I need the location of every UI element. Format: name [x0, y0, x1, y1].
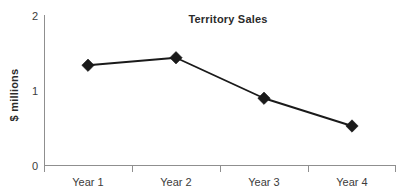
chart-container: Territory Sales $ millions 2 1 0 Year 1 … [0, 0, 410, 194]
y-axis-title: $ millions [8, 69, 20, 122]
x-category-label-year-4: Year 4 [336, 176, 367, 188]
x-category-label-year-3: Year 3 [248, 176, 279, 188]
y-tick-label-1: 1 [32, 85, 38, 97]
x-category-label-year-1: Year 1 [72, 176, 103, 188]
chart-title: Territory Sales [188, 13, 267, 25]
line-chart: Territory Sales $ millions 2 1 0 Year 1 … [0, 0, 410, 194]
y-tick-label-2: 2 [32, 10, 38, 22]
y-tick-label-0: 0 [32, 160, 38, 172]
x-category-label-year-2: Year 2 [160, 176, 191, 188]
